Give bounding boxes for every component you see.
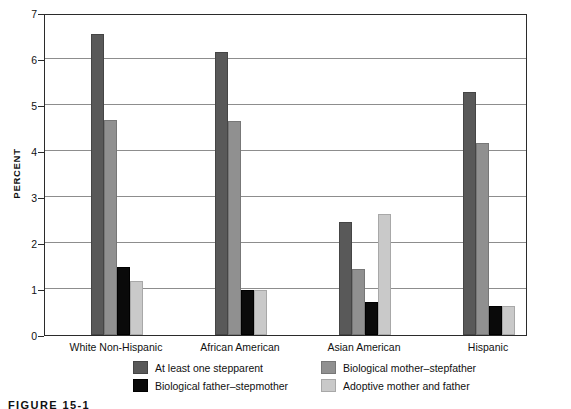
bar (117, 267, 130, 335)
legend-item: Biological mother–stepfather (321, 361, 476, 374)
bar-series-layer (45, 15, 526, 335)
y-axis-tick-label: 5 (9, 100, 37, 112)
bar (228, 121, 241, 335)
legend-item: At least one stepparent (133, 361, 321, 374)
y-axis-tick-label: 7 (9, 8, 37, 20)
x-axis-category-label: Asian American (328, 341, 401, 353)
legend-item: Adoptive mother and father (321, 379, 470, 392)
legend-row: At least one stepparentBiological mother… (133, 361, 533, 374)
legend-item: Biological father–stepmother (133, 379, 321, 392)
bar (352, 269, 365, 335)
light-gray-swatch (321, 379, 336, 392)
legend-label: At least one stepparent (155, 362, 263, 374)
bar (241, 290, 254, 335)
medium-gray-swatch (321, 361, 336, 374)
bar (215, 52, 228, 335)
bar (502, 306, 515, 335)
legend-label: Biological mother–stepfather (343, 362, 476, 374)
bar (254, 290, 267, 335)
y-axis-tick-mark (38, 336, 44, 337)
bar (339, 222, 352, 335)
bar (365, 302, 378, 335)
chart-legend: At least one stepparentBiological mother… (133, 361, 533, 397)
bar-group (91, 15, 143, 335)
y-axis-tick-label: 1 (9, 284, 37, 296)
x-axis-category-label: African American (200, 341, 279, 353)
legend-label: Adoptive mother and father (343, 380, 470, 392)
plot-area (44, 14, 527, 336)
y-axis-tick-label: 4 (9, 146, 37, 158)
y-axis-tick-label: 3 (9, 192, 37, 204)
legend-label: Biological father–stepmother (155, 380, 288, 392)
bar (378, 214, 391, 335)
legend-row: Biological father–stepmotherAdoptive mot… (133, 379, 533, 392)
bar (463, 92, 476, 335)
y-axis-tick-label: 2 (9, 238, 37, 250)
bar-group (215, 15, 267, 335)
x-axis-category-label: White Non-Hispanic (70, 341, 163, 353)
black-swatch (133, 379, 148, 392)
figure-container: PERCENT 01234567 White Non-HispanicAfric… (0, 0, 571, 409)
bar (130, 281, 143, 335)
figure-caption: FIGURE 15-1 (8, 399, 90, 409)
bar (489, 306, 502, 335)
bar-group (463, 15, 515, 335)
y-axis-tick-label: 0 (9, 330, 37, 342)
bar (104, 120, 117, 335)
bar (476, 143, 489, 335)
bar (91, 34, 104, 335)
x-axis-category-label: Hispanic (468, 341, 508, 353)
y-axis-tick-label: 6 (9, 54, 37, 66)
dark-gray-swatch (133, 361, 148, 374)
bar-group (339, 15, 391, 335)
